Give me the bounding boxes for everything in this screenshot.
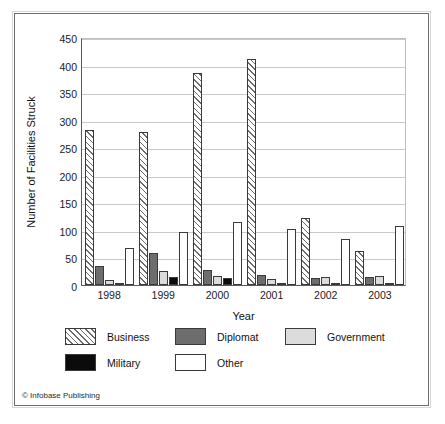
bar-cluster: 2000: [190, 39, 244, 285]
legend-label-business: Business: [107, 331, 150, 343]
x-tick-label: 2003: [368, 289, 391, 301]
y-tick-label: 200: [59, 171, 77, 183]
x-axis-title: Year: [81, 310, 406, 322]
y-tick-label: 450: [59, 33, 77, 45]
bar-diplomat-2000: [203, 270, 212, 285]
legend-swatch-military: [65, 354, 96, 371]
legend-label-other: Other: [217, 357, 243, 369]
bar-cluster: 1998: [82, 39, 136, 285]
bar-military-2003: [385, 283, 394, 285]
y-tick-label: 150: [59, 198, 77, 210]
credit-line: © Infobase Publishing: [22, 391, 100, 400]
bar-business-1998: [85, 130, 94, 285]
legend-item-diplomat[interactable]: Diplomat: [175, 328, 285, 345]
bar-diplomat-1998: [95, 266, 104, 285]
bar-business-2000: [193, 73, 202, 285]
bar-government-2003: [375, 276, 384, 285]
legend-swatch-diplomat: [175, 328, 206, 345]
legend-swatch-government: [285, 328, 316, 345]
bar-government-2000: [213, 276, 222, 285]
bar-government-1998: [105, 280, 114, 285]
legend-label-military: Military: [107, 357, 140, 369]
bar-diplomat-2002: [311, 278, 320, 285]
legend-swatch-business: [65, 328, 96, 345]
bar-other-2002: [341, 239, 350, 285]
legend-item-government[interactable]: Government: [285, 328, 395, 345]
bar-diplomat-2001: [257, 275, 266, 285]
y-tick-label: 100: [59, 226, 77, 238]
bar-military-1999: [169, 277, 178, 285]
legend-label-government: Government: [327, 331, 385, 343]
x-tick-label: 1999: [152, 289, 175, 301]
bar-cluster: 1999: [136, 39, 190, 285]
chart-legend: BusinessDiplomatGovernmentMilitaryOther: [65, 328, 395, 380]
y-axis-title: Number of Facilities Struck: [25, 96, 37, 227]
bar-other-2003: [395, 226, 404, 285]
bar-other-1998: [125, 248, 134, 285]
bar-government-2001: [267, 279, 276, 285]
y-tick-label: 300: [59, 116, 77, 128]
plot-area: 0501001502002503003504004501998199920002…: [81, 38, 406, 286]
y-tick-label: 350: [59, 88, 77, 100]
bar-business-1999: [139, 132, 148, 285]
bar-government-2002: [321, 277, 330, 285]
bar-military-2002: [331, 283, 340, 285]
bar-military-2001: [277, 283, 286, 285]
bar-other-1999: [179, 232, 188, 285]
x-tick-label: 2000: [206, 289, 229, 301]
bar-military-1998: [115, 283, 124, 285]
bar-business-2001: [247, 59, 256, 285]
bar-cluster: 2003: [353, 39, 407, 285]
bar-business-2003: [355, 251, 364, 285]
bar-military-2000: [223, 278, 232, 285]
bar-cluster: 2002: [299, 39, 353, 285]
y-tick-label: 400: [59, 61, 77, 73]
bar-other-2000: [233, 222, 242, 285]
y-tick-label: 250: [59, 143, 77, 155]
bar-business-2002: [301, 218, 310, 285]
y-tick-label: 0: [71, 281, 77, 293]
legend-item-other[interactable]: Other: [175, 354, 285, 371]
bar-other-2001: [287, 229, 296, 285]
bar-cluster: 2001: [245, 39, 299, 285]
bar-diplomat-1999: [149, 253, 158, 286]
bar-diplomat-2003: [365, 277, 374, 285]
legend-swatch-other: [175, 354, 206, 371]
bar-government-1999: [159, 271, 168, 285]
legend-item-military[interactable]: Military: [65, 354, 175, 371]
chart-figure: Number of Facilities Struck 050100150200…: [14, 13, 429, 406]
x-tick-label: 1998: [97, 289, 120, 301]
x-tick-label: 2001: [260, 289, 283, 301]
x-tick-label: 2002: [314, 289, 337, 301]
legend-item-business[interactable]: Business: [65, 328, 175, 345]
legend-label-diplomat: Diplomat: [217, 331, 258, 343]
y-tick-label: 50: [65, 253, 77, 265]
